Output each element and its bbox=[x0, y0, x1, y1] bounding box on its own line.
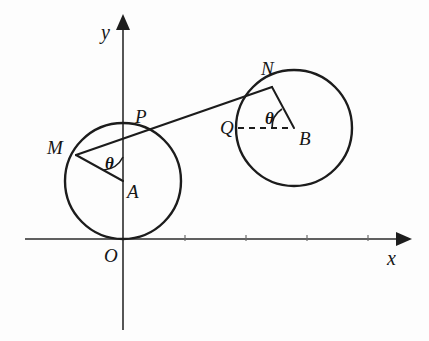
point-label-p: P bbox=[135, 107, 147, 126]
point-label-m: M bbox=[47, 138, 63, 157]
x-axis-label: x bbox=[387, 248, 396, 268]
angle-label-theta-a: θ bbox=[105, 155, 114, 172]
figure-canvas bbox=[0, 0, 429, 341]
point-label-a: A bbox=[127, 182, 139, 201]
x-axis-arrowhead bbox=[396, 232, 412, 246]
y-axis-label: y bbox=[101, 22, 110, 42]
tangent-line-mn bbox=[76, 87, 272, 155]
radius-am bbox=[76, 155, 123, 181]
radius-bn bbox=[272, 87, 294, 128]
y-axis-arrowhead bbox=[116, 14, 130, 30]
point-label-b: B bbox=[299, 129, 311, 148]
point-label-o: O bbox=[104, 246, 118, 265]
geometry-figure: M P A O N Q B θ θ x y bbox=[0, 0, 429, 341]
point-label-q: Q bbox=[220, 118, 234, 137]
point-label-n: N bbox=[261, 59, 274, 78]
angle-label-theta-b: θ bbox=[265, 110, 274, 127]
